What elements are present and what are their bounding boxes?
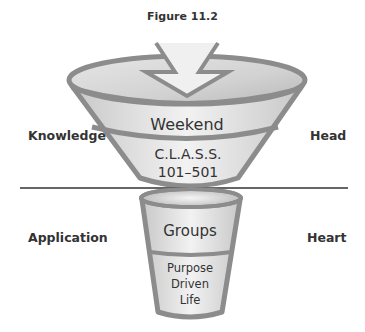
band-label-purpose: Purpose xyxy=(167,261,213,275)
band-label-class-line1: C.L.A.S.S. xyxy=(155,146,222,162)
band-label-groups: Groups xyxy=(163,222,217,240)
band-label-life: Life xyxy=(180,293,201,307)
label-application: Application xyxy=(28,230,108,245)
label-head: Head xyxy=(310,128,346,143)
band-label-weekend: Weekend xyxy=(150,115,223,134)
label-knowledge: Knowledge xyxy=(28,128,106,143)
band-label-class-line2: 101–501 xyxy=(158,164,218,180)
band-label-driven: Driven xyxy=(171,277,209,291)
funnel-diagram: Weekend C.L.A.S.S. 101–501 Groups Purpos… xyxy=(0,0,365,332)
label-heart: Heart xyxy=(307,230,347,245)
